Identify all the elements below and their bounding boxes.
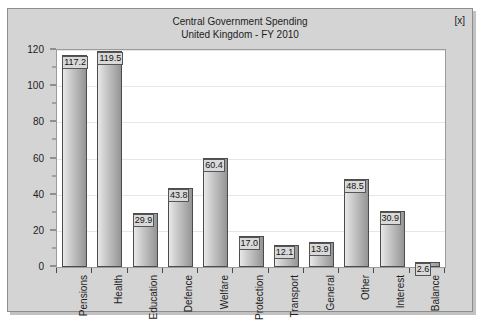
x-axis-category-label: Education (148, 275, 159, 319)
close-button[interactable]: [x] (454, 15, 465, 27)
x-axis-tick (197, 268, 198, 273)
x-axis-category-label: Other (360, 275, 371, 300)
x-axis-category-label: Balance (430, 275, 441, 311)
bar-value-label: 117.2 (62, 56, 88, 69)
y-axis-tick-label: 120 (27, 44, 44, 55)
chart-window: Central Government Spending United Kingd… (7, 8, 473, 312)
x-axis-tick (409, 268, 410, 273)
x-axis-tick (232, 268, 233, 273)
bar-value-label: 30.9 (380, 212, 402, 225)
y-axis-tick-label: 20 (33, 224, 44, 235)
y-axis-tick-label: 0 (38, 261, 44, 272)
x-axis-tick (56, 268, 57, 273)
x-axis-tick (127, 268, 128, 273)
bar-value-label: 13.9 (309, 243, 331, 256)
bar[interactable] (203, 158, 228, 267)
chart-title: Central Government Spending United Kingd… (8, 15, 472, 41)
bar-value-label: 17.0 (239, 237, 261, 250)
y-axis-tick-label: 40 (33, 188, 44, 199)
x-axis-category-label: Defence (183, 275, 194, 312)
bar-value-label: 12.1 (274, 246, 296, 259)
x-axis-category-label: Welfare (219, 275, 230, 309)
bar[interactable] (97, 51, 122, 267)
x-axis-category-label: Protection (254, 275, 265, 320)
x-axis-tick (91, 268, 92, 273)
bar-value-label: 43.8 (168, 189, 190, 202)
y-axis-tick-label: 60 (33, 152, 44, 163)
chart-title-line-1: Central Government Spending (8, 15, 472, 28)
x-axis-tick (303, 268, 304, 273)
bar[interactable] (62, 55, 87, 267)
x-axis: PensionsHealthEducationDefenceWelfarePro… (56, 268, 446, 334)
bar-value-label: 48.5 (344, 180, 366, 193)
x-axis-tick (373, 268, 374, 273)
y-axis-tick-label: 80 (33, 116, 44, 127)
x-axis-category-label: Health (113, 275, 124, 304)
x-axis-tick (338, 268, 339, 273)
y-axis: 020406080100120 (8, 49, 56, 268)
chart-subtitle-line-2: United Kingdom - FY 2010 (8, 28, 472, 41)
plot-area: 117.2119.529.943.860.417.012.113.948.530… (56, 49, 446, 268)
bar-value-label: 29.9 (133, 214, 155, 227)
x-axis-category-label: General (325, 275, 336, 311)
x-axis-category-label: Pensions (78, 275, 89, 316)
bar-value-label: 119.5 (97, 52, 123, 65)
x-axis-tick (268, 268, 269, 273)
x-axis-category-label: Interest (395, 275, 406, 308)
x-axis-tick (162, 268, 163, 273)
x-axis-category-label: Transport (289, 275, 300, 317)
y-axis-tick-label: 100 (27, 80, 44, 91)
bar-value-label: 60.4 (203, 159, 225, 172)
x-axis-tick (444, 268, 445, 273)
